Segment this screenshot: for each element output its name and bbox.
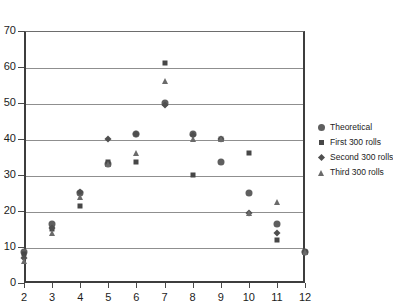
x-tick-label: 12 bbox=[295, 292, 315, 303]
x-tick-mark bbox=[221, 283, 222, 288]
circle-marker-icon bbox=[316, 123, 326, 133]
legend-item-triangle[interactable]: Third 300 rolls bbox=[316, 165, 382, 180]
data-point-square bbox=[246, 151, 251, 156]
x-tick-label: 11 bbox=[267, 292, 287, 303]
x-tick-label: 5 bbox=[98, 292, 118, 303]
y-tick-mark bbox=[18, 103, 24, 104]
x-tick-label: 7 bbox=[155, 292, 175, 303]
x-tick-label: 9 bbox=[211, 292, 231, 303]
y-tick-mark bbox=[18, 247, 24, 248]
x-tick-mark bbox=[52, 283, 53, 288]
legend-item-label: Second 300 rolls bbox=[330, 153, 393, 162]
x-tick-mark bbox=[108, 283, 109, 288]
legend-item-label: First 300 rolls bbox=[330, 138, 381, 147]
y-tick-label: 50 bbox=[0, 97, 16, 108]
x-tick-label: 8 bbox=[183, 292, 203, 303]
y-tick-label: 20 bbox=[0, 205, 16, 216]
legend-item-label: Theoretical bbox=[330, 123, 372, 132]
y-tick-label: 30 bbox=[0, 169, 16, 180]
y-tick-label: 40 bbox=[0, 133, 16, 144]
data-point-triangle bbox=[133, 150, 139, 156]
y-tick-label: 10 bbox=[0, 241, 16, 252]
gridline bbox=[26, 176, 303, 177]
chart-legend: TheoreticalFirst 300 rollsSecond 300 rol… bbox=[316, 120, 382, 180]
y-tick-mark bbox=[18, 211, 24, 212]
data-point-square bbox=[134, 160, 139, 165]
data-point-triangle bbox=[274, 199, 280, 205]
data-point-triangle bbox=[302, 249, 308, 255]
plot-area bbox=[24, 31, 305, 283]
data-point-triangle bbox=[21, 258, 27, 264]
data-point-triangle bbox=[246, 210, 252, 216]
y-tick-label: 60 bbox=[0, 61, 16, 72]
diamond-marker-icon bbox=[316, 153, 326, 163]
legend-item-label: Third 300 rolls bbox=[330, 168, 384, 177]
x-tick-mark bbox=[193, 283, 194, 288]
data-point-square bbox=[78, 203, 83, 208]
legend-item-diamond[interactable]: Second 300 rolls bbox=[316, 150, 382, 165]
data-point-circle bbox=[217, 159, 224, 166]
data-point-circle bbox=[245, 190, 252, 197]
x-tick-mark bbox=[165, 283, 166, 288]
data-point-triangle bbox=[218, 136, 224, 142]
y-tick-mark bbox=[18, 139, 24, 140]
y-tick-label: 0 bbox=[0, 277, 16, 288]
x-tick-mark bbox=[80, 283, 81, 288]
data-point-square bbox=[274, 237, 279, 242]
data-point-triangle bbox=[105, 161, 111, 167]
data-point-square bbox=[162, 61, 167, 66]
x-tick-label: 2 bbox=[14, 292, 34, 303]
square-marker-icon bbox=[316, 138, 326, 148]
x-tick-mark bbox=[277, 283, 278, 288]
x-tick-mark bbox=[136, 283, 137, 288]
x-tick-label: 3 bbox=[42, 292, 62, 303]
data-point-triangle bbox=[162, 78, 168, 84]
y-tick-label: 70 bbox=[0, 25, 16, 36]
gridline bbox=[26, 140, 303, 141]
gridline bbox=[26, 248, 303, 249]
legend-item-circle[interactable]: Theoretical bbox=[316, 120, 382, 135]
x-tick-label: 4 bbox=[70, 292, 90, 303]
y-tick-mark bbox=[18, 31, 24, 32]
x-tick-label: 10 bbox=[239, 292, 259, 303]
data-point-triangle bbox=[190, 136, 196, 142]
x-tick-mark bbox=[305, 283, 306, 288]
gridline bbox=[26, 68, 303, 69]
data-point-triangle bbox=[77, 194, 83, 200]
data-point-square bbox=[190, 173, 195, 178]
x-tick-mark bbox=[24, 283, 25, 288]
gridline bbox=[26, 212, 303, 213]
data-point-circle bbox=[273, 220, 280, 227]
data-point-triangle bbox=[49, 230, 55, 236]
y-tick-mark bbox=[18, 67, 24, 68]
x-tick-mark bbox=[249, 283, 250, 288]
y-tick-mark bbox=[18, 175, 24, 176]
legend-item-square[interactable]: First 300 rolls bbox=[316, 135, 382, 150]
x-tick-label: 6 bbox=[126, 292, 146, 303]
triangle-marker-icon bbox=[316, 168, 326, 178]
